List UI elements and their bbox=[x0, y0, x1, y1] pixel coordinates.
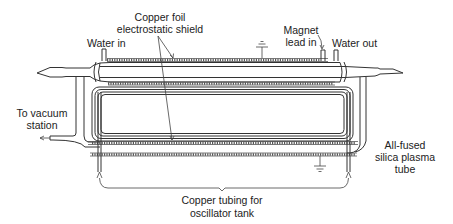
label-magnet-line2: lead in bbox=[286, 36, 317, 48]
label-tube-line3: tube bbox=[395, 163, 415, 175]
water-in-stub bbox=[102, 49, 106, 61]
ground-symbol-bottom bbox=[314, 156, 326, 172]
label-vacuum-line2: station bbox=[27, 119, 58, 131]
label-tube-line2: silica plasma bbox=[375, 151, 435, 163]
magnet-leader bbox=[318, 35, 324, 49]
plasma-tube-diagram bbox=[0, 0, 453, 224]
magnet-lead-stub bbox=[321, 50, 325, 61]
main-tube bbox=[37, 62, 403, 82]
label-vacuum-line1: To vacuum bbox=[17, 107, 68, 119]
label-tubing-line1: Copper tubing for bbox=[181, 194, 262, 206]
tubing-brace bbox=[100, 178, 349, 191]
label-shield-line1: Copper foil bbox=[135, 11, 186, 23]
inner-loop bbox=[92, 87, 353, 141]
copper-tubing bbox=[97, 92, 351, 178]
ground-symbol-top bbox=[256, 42, 268, 59]
water-out-stub bbox=[334, 50, 338, 61]
shield-leaders bbox=[158, 36, 174, 140]
upper-inner-shield bbox=[108, 82, 335, 85]
top-shield bbox=[107, 59, 328, 62]
label-water-out: Water out bbox=[332, 37, 377, 49]
label-magnet-line1: Magnet bbox=[283, 24, 318, 36]
lower-shield bbox=[88, 142, 358, 157]
label-tubing-line2: oscillator tank bbox=[190, 207, 254, 219]
label-water-in: Water in bbox=[87, 37, 126, 49]
label-shield-line2: electrostatic shield bbox=[117, 23, 203, 35]
label-tube-line1: All-fused bbox=[385, 139, 426, 151]
